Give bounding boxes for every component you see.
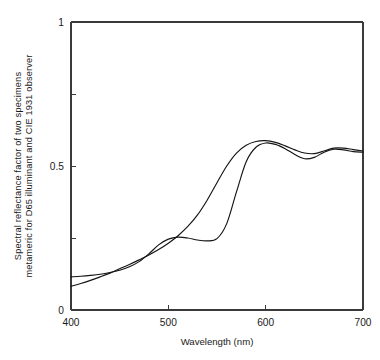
x-tick-label: 400: [63, 317, 80, 328]
x-tick-label: 700: [355, 317, 372, 328]
y-axis-label-line2: metameric for D65 illuminant and CIE 193…: [24, 54, 34, 277]
curve-specimen-2: [71, 141, 363, 287]
y-tick-label: 0: [58, 305, 64, 316]
y-axis-ticks: [71, 22, 76, 310]
x-axis-label: Wavelength (nm): [181, 336, 254, 347]
x-tick-label: 500: [160, 317, 177, 328]
y-axis-tick-labels: 00.51: [50, 17, 65, 316]
y-axis-label-line1: Spectral reflectance factor of two speci…: [13, 72, 23, 261]
x-tick-label: 600: [257, 317, 274, 328]
x-axis-tick-labels: 400500600700: [63, 317, 372, 328]
data-curves: [71, 141, 363, 287]
x-axis-ticks: [71, 305, 363, 310]
y-tick-label: 1: [58, 17, 64, 28]
spectral-reflectance-chart: 00.51 400500600700 Spectral reflectance …: [0, 0, 380, 360]
curve-specimen-1: [71, 143, 363, 277]
y-tick-label: 0.5: [50, 161, 64, 172]
